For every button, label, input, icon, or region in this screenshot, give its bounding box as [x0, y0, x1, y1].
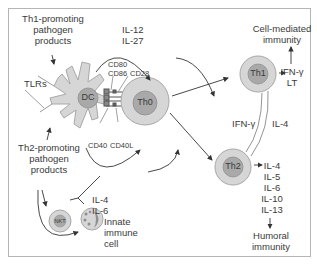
- il4-text: IL-4: [92, 194, 108, 205]
- cd28-label: CD28: [130, 69, 149, 78]
- lt-text: LT: [279, 77, 305, 88]
- th1-cytokines-label: IFN-γ LT: [279, 66, 305, 88]
- cd86-text: CD86: [108, 69, 127, 78]
- th2-label: Th2: [223, 161, 243, 171]
- th2-il13-text: IL-13: [258, 204, 286, 215]
- il6-text: IL-6: [92, 205, 108, 216]
- humoral-immunity-label: Humoral immunity: [246, 230, 296, 252]
- th2-promoting-line-1: Th2-promoting: [14, 142, 84, 153]
- th2-il5-text: IL-5: [258, 171, 286, 182]
- th1-label: Th1: [248, 68, 268, 78]
- innate-line-3: cell: [104, 238, 138, 249]
- cd80-text: CD80: [108, 60, 127, 69]
- th2-il4-text: IL-4: [258, 160, 286, 171]
- cd80-cd86-label: CD80 CD86: [108, 60, 127, 78]
- nkt-label: NKT: [52, 218, 68, 224]
- cross-il4-label: IL-4: [272, 118, 288, 129]
- tlrs-label: TLRs: [24, 78, 47, 89]
- th2-cytokines-label: IL-4 IL-5 IL-6 IL-10 IL-13: [258, 160, 286, 215]
- innate-immune-cell-label: Innate immune cell: [104, 216, 138, 249]
- dc-label: DC: [78, 92, 98, 102]
- cell-mediated-line-2: immunity: [250, 34, 314, 45]
- th1-promoting-label: Th1-promoting pathogen products: [18, 13, 88, 46]
- th1-promoting-line-3: products: [18, 35, 88, 46]
- cd40-label: CD40: [88, 141, 107, 150]
- cell-mediated-line-1: Cell-mediated: [250, 23, 314, 34]
- th2-promoting-label: Th2-promoting pathogen products: [14, 142, 84, 175]
- ifn-gamma-text: IFN-γ: [279, 66, 305, 77]
- humoral-line-1: Humoral: [246, 230, 296, 241]
- innate-line-1: Innate: [104, 216, 138, 227]
- th2-il6-text: IL-6: [258, 182, 286, 193]
- il12-text: IL-12: [122, 24, 144, 35]
- th2-il10-text: IL-10: [258, 193, 286, 204]
- th2-promoting-line-3: products: [14, 164, 84, 175]
- il27-text: IL-27: [122, 35, 144, 46]
- cross-ifn-gamma-label: IFN-γ: [232, 118, 255, 129]
- th1-promoting-line-1: Th1-promoting: [18, 13, 88, 24]
- cd40l-label: CD40L: [110, 141, 133, 150]
- innate-line-2: immune: [104, 227, 138, 238]
- th0-label: Th0: [133, 97, 157, 107]
- il4-il6-label: IL-4 IL-6: [92, 194, 108, 216]
- il12-il27-label: IL-12 IL-27: [122, 24, 144, 46]
- th2-promoting-line-2: pathogen: [14, 153, 84, 164]
- humoral-line-2: immunity: [246, 241, 296, 252]
- cell-mediated-immunity-label: Cell-mediated immunity: [250, 23, 314, 45]
- th1-promoting-line-2: pathogen: [18, 24, 88, 35]
